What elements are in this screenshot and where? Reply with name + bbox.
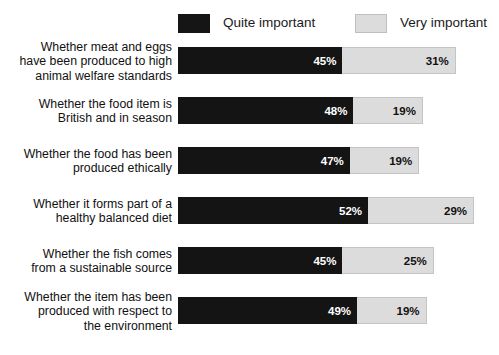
legend-swatch-quite-important-icon [178, 14, 210, 33]
bar-value-label: 29% [444, 205, 473, 217]
legend-swatch-very-important-icon [355, 14, 387, 33]
chart-row: Whether it forms part of a healthy balan… [0, 192, 499, 242]
chart-row: Whether the food item is British and in … [0, 92, 499, 142]
bar-segment-quite-important: 49% [178, 297, 357, 324]
stacked-bar: 45% 31% [178, 47, 456, 74]
chart-row: Whether meat and eggs have been produced… [0, 42, 499, 92]
legend-entry-very-important: Very important [355, 12, 487, 34]
stacked-bar: 52% 29% [178, 197, 474, 224]
bar-value-label: 49% [328, 305, 357, 317]
bar-segment-very-important: 19% [357, 297, 426, 324]
stacked-bar-chart: Quite important Very important Whether m… [0, 0, 499, 355]
bar-value-label: 19% [393, 105, 422, 117]
bar-segment-quite-important: 47% [178, 147, 350, 174]
stacked-bar: 47% 19% [178, 147, 419, 174]
category-label: Whether it forms part of a healthy balan… [0, 197, 172, 226]
bar-value-label: 31% [426, 55, 455, 67]
bar-value-label: 45% [313, 55, 342, 67]
bar-value-label: 47% [321, 155, 350, 167]
bar-segment-very-important: 19% [353, 97, 422, 124]
chart-plot-area: Whether meat and eggs have been produced… [0, 42, 499, 342]
chart-legend: Quite important Very important [0, 12, 499, 36]
category-label: Whether the food item is British and in … [0, 97, 172, 126]
bar-segment-quite-important: 52% [178, 197, 368, 224]
bar-value-label: 48% [324, 105, 353, 117]
chart-row: Whether the item has been produced with … [0, 292, 499, 342]
bar-segment-very-important: 19% [350, 147, 419, 174]
chart-row: Whether the fish comes from a sustainabl… [0, 242, 499, 292]
bar-segment-quite-important: 45% [178, 47, 342, 74]
bar-value-label: 25% [404, 255, 433, 267]
bar-value-label: 45% [313, 255, 342, 267]
legend-label-very-important: Very important [400, 15, 487, 31]
category-label: Whether the food has been produced ethic… [0, 147, 172, 176]
legend-entry-quite-important: Quite important [178, 12, 315, 34]
bar-segment-very-important: 29% [368, 197, 474, 224]
stacked-bar: 48% 19% [178, 97, 423, 124]
bar-value-label: 19% [389, 155, 418, 167]
bar-segment-very-important: 31% [342, 47, 455, 74]
bar-value-label: 19% [397, 305, 426, 317]
bar-segment-quite-important: 45% [178, 247, 342, 274]
chart-row: Whether the food has been produced ethic… [0, 142, 499, 192]
category-label: Whether meat and eggs have been produced… [0, 40, 172, 83]
stacked-bar: 49% 19% [178, 297, 427, 324]
legend-label-quite-important: Quite important [223, 15, 315, 31]
stacked-bar: 45% 25% [178, 247, 434, 274]
bar-value-label: 52% [339, 205, 368, 217]
bar-segment-very-important: 25% [342, 247, 433, 274]
category-label: Whether the item has been produced with … [0, 290, 172, 333]
category-label: Whether the fish comes from a sustainabl… [0, 247, 172, 276]
bar-segment-quite-important: 48% [178, 97, 353, 124]
